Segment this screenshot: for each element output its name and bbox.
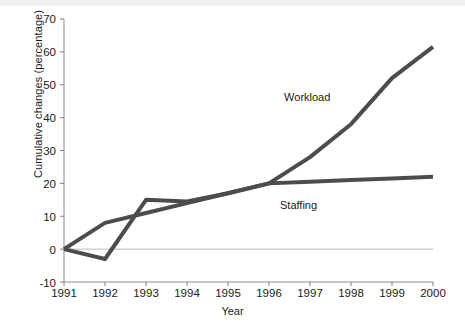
plot-area: [0, 0, 465, 328]
series-line-workload: [64, 47, 433, 259]
line-chart: Cumulative changes (percentage) Year 70 …: [0, 0, 465, 328]
y-axis-ticks: [60, 19, 64, 282]
series-label-workload: Workload: [284, 91, 330, 103]
series-label-staffing: Staffing: [280, 199, 317, 211]
x-axis-ticks: [64, 282, 433, 286]
